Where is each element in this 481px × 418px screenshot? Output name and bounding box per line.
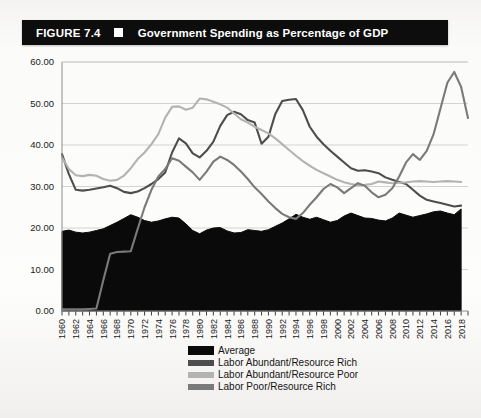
x-axis-tick-labels: 1960196219641966196819701972197419761978… xyxy=(57,319,466,339)
x-axis-tick-label: 1974 xyxy=(154,319,164,339)
legend-swatch-icon xyxy=(188,346,214,355)
legend-swatch-icon xyxy=(188,384,214,390)
x-axis-tick-label: 1976 xyxy=(168,319,178,339)
x-axis-tick-label: 1982 xyxy=(209,319,219,339)
legend-label: Average xyxy=(218,345,255,356)
y-axis-tick-labels: 0.0010.0020.0030.0040.0050.0060.00 xyxy=(30,56,54,316)
y-axis-tick-label: 10.00 xyxy=(30,264,54,275)
legend-item[interactable]: Labor Abundant/Resource Rich xyxy=(188,357,428,369)
x-axis-tick-label: 2018 xyxy=(457,319,467,339)
series-area-average xyxy=(62,209,461,311)
x-axis-tick-label: 2010 xyxy=(401,319,411,339)
legend-swatch-icon xyxy=(188,372,214,378)
x-axis-tick-label: 1964 xyxy=(85,319,95,339)
y-axis-tick-label: 50.00 xyxy=(30,98,54,109)
x-axis-tick-label: 1990 xyxy=(264,319,274,339)
x-axis-tickmarks xyxy=(62,311,468,316)
legend-swatch-icon xyxy=(188,360,214,366)
x-axis-tick-label: 1962 xyxy=(71,319,81,339)
y-axis-tick-label: 0.00 xyxy=(36,305,55,316)
legend-label: Labor Abundant/Resource Poor xyxy=(218,369,358,380)
legend-item[interactable]: Average xyxy=(188,345,428,357)
x-axis-tick-label: 1992 xyxy=(278,319,288,339)
y-axis-tick-label: 30.00 xyxy=(30,181,54,192)
x-axis-tick-label: 1984 xyxy=(223,319,233,339)
y-axis-tick-label: 60.00 xyxy=(30,56,54,67)
page-title: Government Spending as Percentage of GDP xyxy=(138,27,389,39)
x-axis-tick-label: 2012 xyxy=(415,319,425,339)
legend-label: Labor Poor/Resource Rich xyxy=(218,381,336,392)
x-axis-tick-label: 2008 xyxy=(388,319,398,339)
chart-plot-area: 0.0010.0020.0030.0040.0050.0060.00 19601… xyxy=(0,46,481,346)
x-axis-tick-label: 1996 xyxy=(305,319,315,339)
x-axis-tick-label: 1966 xyxy=(99,319,109,339)
legend-label: Labor Abundant/Resource Rich xyxy=(218,357,357,368)
x-axis-tick-label: 1968 xyxy=(112,319,122,339)
figure-title-bar: FIGURE 7.4 Government Spending as Percen… xyxy=(22,20,448,45)
data-series-layer xyxy=(62,72,468,311)
chart-legend: AverageLabor Abundant/Resource RichLabor… xyxy=(188,345,428,393)
x-axis-tick-label: 1970 xyxy=(126,319,136,339)
x-axis-tick-label: 2014 xyxy=(429,319,439,339)
y-axis-tick-label: 40.00 xyxy=(30,139,54,150)
line-chart-svg: 0.0010.0020.0030.0040.0050.0060.00 19601… xyxy=(0,46,481,346)
y-axis-tick-label: 20.00 xyxy=(30,222,54,233)
series-line-tail xyxy=(461,87,468,118)
x-axis-tick-label: 2004 xyxy=(360,319,370,339)
x-axis-tick-label: 2006 xyxy=(374,319,384,339)
white-square-icon xyxy=(114,28,123,37)
x-axis-tick-label: 1972 xyxy=(140,319,150,339)
figure-number: FIGURE 7.4 xyxy=(36,27,101,39)
legend-item[interactable]: Labor Abundant/Resource Poor xyxy=(188,369,428,381)
series-line xyxy=(62,99,461,206)
x-axis-tick-label: 2000 xyxy=(333,319,343,339)
legend-item[interactable]: Labor Poor/Resource Rich xyxy=(188,381,428,393)
x-axis-tick-label: 2016 xyxy=(443,319,453,339)
x-axis-tick-label: 1978 xyxy=(181,319,191,339)
x-axis-tick-label: 1998 xyxy=(319,319,329,339)
x-axis-tick-label: 2002 xyxy=(346,319,356,339)
figure-container: FIGURE 7.4 Government Spending as Percen… xyxy=(0,0,481,418)
x-axis-tick-label: 1960 xyxy=(57,319,67,339)
x-axis-tick-label: 1994 xyxy=(291,319,301,339)
x-axis-tick-label: 1980 xyxy=(195,319,205,339)
x-axis-tick-label: 1988 xyxy=(250,319,260,339)
x-axis-tick-label: 1986 xyxy=(236,319,246,339)
